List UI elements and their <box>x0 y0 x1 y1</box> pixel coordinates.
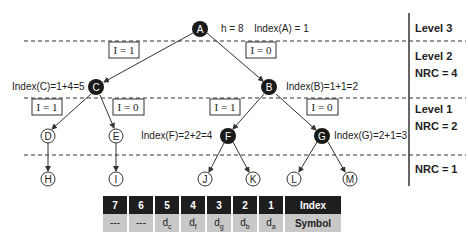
index-symbol-table: 7 6 5 4 3 2 1 Index --- --- dc df dg db … <box>101 196 343 232</box>
node-m: M <box>343 172 357 186</box>
svg-text:D: D <box>44 131 51 142</box>
level-1-nrc: NRC = 2 <box>415 120 458 132</box>
index-c-label: Index(C)=1+4=5 <box>12 81 85 92</box>
index-a-label: Index(A) = 1 <box>254 23 309 34</box>
svg-text:G: G <box>318 131 326 142</box>
level-0-nrc: NRC = 1 <box>415 163 458 175</box>
node-f: F <box>220 128 236 144</box>
symbol-cell: dg <box>207 214 231 232</box>
svg-text:I = 1: I = 1 <box>114 44 135 56</box>
edge-c-e <box>100 95 114 128</box>
level-1-title: Level 1 <box>415 103 452 115</box>
symbol-row-header: Symbol <box>285 214 341 232</box>
index-cell: 5 <box>155 196 179 214</box>
edge-label-c-d: I = 1 <box>32 99 62 115</box>
symbol-cell: dc <box>155 214 179 232</box>
symbol-cell: --- <box>103 214 127 232</box>
index-g-label: Index(G)=2+1=3 <box>334 130 408 141</box>
index-cell: 2 <box>233 196 257 214</box>
node-c: C <box>88 79 104 95</box>
svg-text:A: A <box>197 24 204 35</box>
index-cell: 4 <box>181 196 205 214</box>
svg-text:J: J <box>203 174 208 185</box>
edge-g-m <box>328 142 345 172</box>
index-b-label: Index(B)=1+1=2 <box>286 81 358 92</box>
index-f-label: Index(F)=2+2=4 <box>141 130 213 141</box>
node-e: E <box>109 129 123 143</box>
svg-text:I = 1: I = 1 <box>215 101 236 113</box>
svg-text:F: F <box>225 131 231 142</box>
symbol-cell: db <box>233 214 257 232</box>
symbol-cell: da <box>259 214 283 232</box>
level-3-title: Level 3 <box>415 22 452 34</box>
svg-text:I = 1: I = 1 <box>37 101 58 113</box>
svg-text:I = 0: I = 0 <box>118 101 139 113</box>
svg-text:H: H <box>44 174 51 185</box>
node-g: G <box>314 128 330 144</box>
svg-text:E: E <box>113 131 120 142</box>
index-cell: 7 <box>103 196 127 214</box>
edge-label-c-e: I = 0 <box>113 99 144 115</box>
symbol-cell: df <box>181 214 205 232</box>
edge-label-a-c: I = 1 <box>109 42 139 58</box>
edge-g-l <box>299 142 317 172</box>
node-i: I <box>109 172 123 186</box>
node-b: B <box>261 79 277 95</box>
node-j: J <box>198 172 212 186</box>
node-h: H <box>41 172 55 186</box>
svg-text:I = 0: I = 0 <box>312 101 333 113</box>
edge-label-b-g: I = 0 <box>307 99 338 115</box>
index-row: 7 6 5 4 3 2 1 Index <box>103 196 341 214</box>
index-cell: 3 <box>207 196 231 214</box>
index-cell: 1 <box>259 196 283 214</box>
svg-text:C: C <box>92 82 99 93</box>
edge-label-b-f: I = 1 <box>210 99 240 115</box>
index-cell: 6 <box>129 196 153 214</box>
node-a: A <box>192 21 208 37</box>
svg-text:K: K <box>250 174 257 185</box>
index-row-header: Index <box>285 196 341 214</box>
level-2-nrc: NRC = 4 <box>415 67 458 79</box>
level-2-title: Level 2 <box>415 50 452 62</box>
svg-text:M: M <box>346 174 354 185</box>
edge-f-k <box>233 142 249 172</box>
edge-f-j <box>209 143 224 172</box>
svg-text:I: I <box>115 174 118 185</box>
node-k: K <box>246 172 260 186</box>
edge-label-a-b: I = 0 <box>246 42 276 58</box>
symbol-row: --- --- dc df dg db da Symbol <box>103 214 341 232</box>
svg-text:L: L <box>291 174 297 185</box>
symbol-cell: --- <box>129 214 153 232</box>
node-d: D <box>41 129 55 143</box>
svg-text:B: B <box>266 82 273 93</box>
svg-text:I = 0: I = 0 <box>251 44 272 56</box>
height-label: h = 8 <box>221 23 244 34</box>
node-l: L <box>287 172 301 186</box>
